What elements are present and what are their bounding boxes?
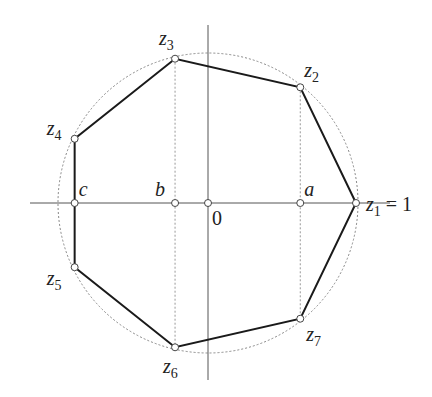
- vertex-label-z3: z3: [158, 27, 174, 53]
- vertex-label-z4: z4: [46, 117, 62, 143]
- axis-point-b: [172, 200, 179, 207]
- vertex-label-z6: z6: [162, 355, 178, 381]
- vertex-label-z7: z7: [305, 323, 321, 349]
- vertex-z5: [71, 264, 78, 271]
- axis-label-a: a: [304, 178, 314, 200]
- vertex-label-z5: z5: [46, 267, 62, 293]
- axis-label-b: b: [155, 178, 165, 200]
- vertex-z6: [172, 344, 179, 351]
- heptagon-diagram: z1 = 1z2z3z4z5z6z7abc0: [0, 0, 432, 397]
- axis-label-origin: 0: [212, 207, 222, 229]
- vertex-label-z1: z1 = 1: [365, 193, 412, 219]
- axis-label-c: c: [79, 178, 88, 200]
- vertex-label-z2: z2: [303, 59, 319, 85]
- vertex-z2: [297, 84, 304, 91]
- vertex-z4: [71, 135, 78, 142]
- vertex-z1: [353, 200, 360, 207]
- axis-point-c: [71, 200, 78, 207]
- vertex-z3: [172, 55, 179, 62]
- axis-point-a: [297, 200, 304, 207]
- vertex-z7: [297, 315, 304, 322]
- axis-point-origin: [205, 200, 212, 207]
